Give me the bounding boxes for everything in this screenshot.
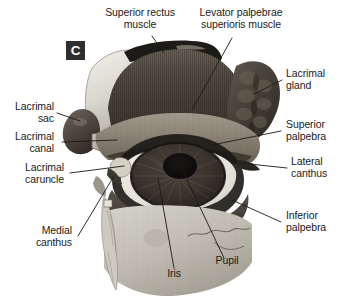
label-lacrimal-gland: Lacrimal gland [286, 68, 340, 91]
cheek-mound [144, 229, 168, 247]
label-medial-canthus: Medial canthus [6, 225, 72, 248]
label-lateral-canthus: Lateral canthus [291, 156, 341, 179]
label-inferior-palpebra: Inferior palpebra [286, 210, 341, 233]
label-lacrimal-caruncle: Lacrimal caruncle [2, 162, 64, 185]
label-levator-palpebrae-superioris-muscle: Levator palpebrae superioris muscle [184, 7, 298, 30]
panel-tag-c: C [66, 41, 85, 60]
label-superior-palpebra: Superior palpebra [286, 119, 341, 142]
label-lacrimal-sac: Lacrimal sac [2, 101, 54, 124]
label-superior-rectus-muscle: Superior rectus muscle [88, 7, 192, 30]
label-pupil: Pupil [206, 255, 248, 267]
label-lacrimal-canal: Lacrimal canal [2, 131, 54, 154]
scale-marker [104, 200, 112, 207]
pupil [163, 153, 197, 179]
label-iris: Iris [156, 268, 192, 280]
anatomy-figure: C Superior rectus muscle Levator palpebr… [0, 0, 341, 299]
specimen-photograph [57, 36, 287, 299]
